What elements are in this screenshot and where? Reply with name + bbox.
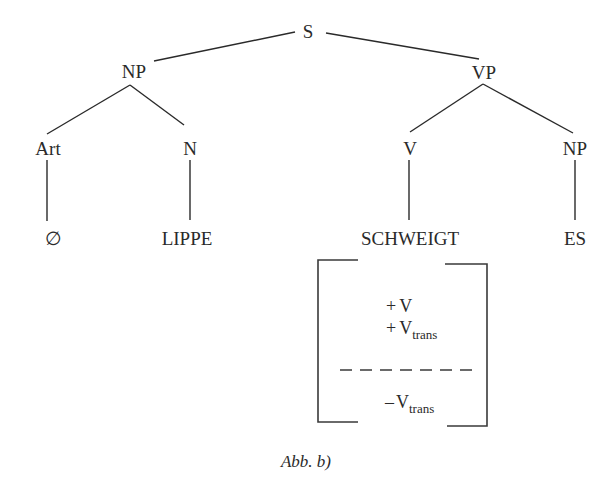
feature-plus-v-trans: +Vtrans <box>386 318 437 342</box>
node-vp: VP <box>472 62 496 83</box>
edge-np-n <box>130 85 184 125</box>
leaf-lippe: LIPPE <box>162 228 213 249</box>
leaf-empty-article: ∅ <box>45 228 62 249</box>
node-np-subject: NP <box>122 61 146 82</box>
edge-vp-np <box>483 84 573 133</box>
right-bracket <box>445 264 487 426</box>
edge-np-art <box>47 85 130 134</box>
node-np-object: NP <box>563 138 587 159</box>
node-n: N <box>183 138 197 159</box>
left-bracket <box>318 260 358 422</box>
node-art: Art <box>35 138 61 159</box>
syntax-tree-diagram: S NP VP Art N V NP ∅ LIPPE SCHWEIGT ES +… <box>0 0 612 494</box>
leaf-es: ES <box>564 228 586 249</box>
figure-caption: Abb. b) <box>280 452 331 471</box>
edge-s-np <box>154 32 295 61</box>
feature-matrix: +V +Vtrans –Vtrans <box>318 260 487 426</box>
feature-plus-v: +V <box>386 296 412 316</box>
feature-minus-v-trans: –Vtrans <box>384 392 434 416</box>
node-v: V <box>403 138 417 159</box>
node-s: S <box>303 21 314 42</box>
edge-s-vp <box>326 33 479 59</box>
edge-vp-v <box>410 84 483 132</box>
leaf-schweigt: SCHWEIGT <box>361 228 460 249</box>
